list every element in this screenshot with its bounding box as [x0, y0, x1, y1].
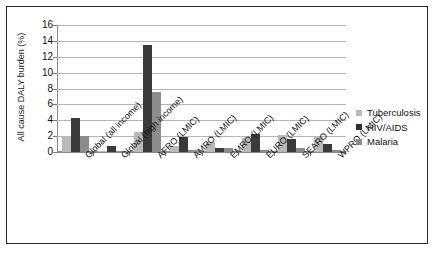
y-tick-label: 12: [42, 52, 53, 62]
chart-figure: All cause DALY burden (%) 0246810121416 …: [0, 0, 436, 256]
legend-label: Malaria: [367, 137, 398, 147]
bar-tb[interactable]: [98, 151, 107, 152]
y-tick-label: 8: [47, 84, 53, 94]
legend-swatch-malaria: [356, 139, 362, 145]
bar-tb[interactable]: [62, 136, 71, 152]
y-tick-label: 14: [42, 36, 53, 46]
bar-hiv[interactable]: [71, 118, 80, 152]
y-tick-label: 10: [42, 68, 53, 78]
bar-hiv[interactable]: [107, 146, 116, 152]
x-axis-label: EMRO (LMIC): [228, 153, 235, 160]
legend-swatch-hiv: [356, 124, 362, 130]
x-axis-label: AMRO (LMIC): [191, 153, 198, 160]
x-axis-label: WPRO (LMIC): [336, 153, 343, 160]
y-axis-title: All cause DALY burden (%): [16, 17, 26, 157]
y-tick-label: 2: [47, 131, 53, 141]
x-axis-label: Global (all income): [83, 153, 90, 160]
chart-legend: TuberculosisHIV/AIDSMalaria: [356, 108, 421, 147]
x-axis-label: SEARO (LMIC): [300, 153, 307, 160]
legend-item[interactable]: HIV/AIDS: [356, 123, 421, 133]
x-axis-label: EURO (LMIC): [264, 153, 271, 160]
legend-swatch-tb: [356, 110, 362, 116]
y-tick-label: 16: [42, 20, 53, 30]
bar-groups: [57, 25, 346, 152]
legend-label: Tuberculosis: [367, 108, 421, 118]
x-axis-label: Global (high income): [119, 153, 126, 160]
legend-label: HIV/AIDS: [367, 123, 408, 133]
x-axis-labels: Global (all income)Global (high income)A…: [57, 153, 346, 243]
plot-area: 0246810121416: [57, 25, 346, 152]
bar-group: [57, 25, 93, 152]
y-tick-label: 6: [47, 99, 53, 109]
y-tick-label: 0: [47, 147, 53, 157]
bar-hiv[interactable]: [323, 144, 332, 152]
legend-item[interactable]: Tuberculosis: [356, 108, 421, 118]
bar-hiv[interactable]: [215, 148, 224, 152]
x-axis-label: AFRO (LMIC): [155, 153, 162, 160]
y-tick-label: 4: [47, 115, 53, 125]
legend-item[interactable]: Malaria: [356, 137, 421, 147]
